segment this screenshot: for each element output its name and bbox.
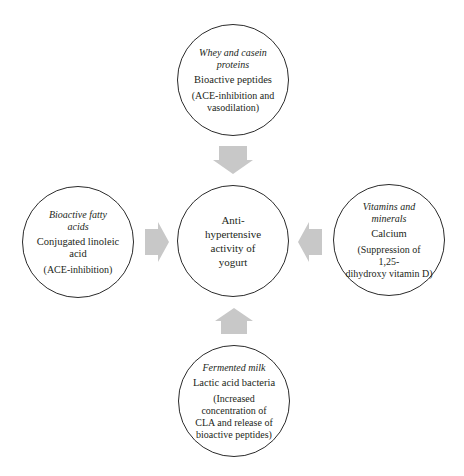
mechanism-line: bioactive peptides) (184, 429, 284, 441)
heading-line: minerals (339, 213, 439, 225)
node-mechanism: (Suppression of 1,25- dihydroxy vitamin … (339, 244, 439, 280)
mechanism-line: 1,25- (339, 256, 439, 268)
node-whey-casein-proteins: Whey and casein proteins Bioactive pepti… (177, 24, 289, 136)
arrow-up-shape (215, 308, 253, 334)
center-line: Anti- (193, 213, 273, 227)
node-center-antihypertensive-activity: Anti- hypertensive activity of yogurt (177, 185, 289, 297)
center-line: hypertensive (193, 227, 273, 241)
heading-line: Fermented milk (184, 362, 284, 374)
agent-line: acid (31, 248, 125, 260)
mechanism-line: (ACE-inhibition and (187, 90, 279, 102)
mechanism-line: (Suppression of (339, 244, 439, 256)
node-mechanism: (Increased concentration of CLA and rele… (184, 393, 284, 441)
node-agent: Calcium (339, 228, 439, 240)
heading-line: Vitamins and (339, 201, 439, 213)
mechanism-line: (Increased (184, 393, 284, 405)
node-mechanism: (ACE-inhibition) (31, 264, 125, 276)
arrow-left-shape (298, 222, 322, 262)
center-line: yogurt (193, 255, 273, 269)
agent-line: Conjugated linoleic (31, 236, 125, 248)
arrow-left-icon (298, 222, 322, 262)
node-heading: Fermented milk (184, 362, 284, 374)
node-agent: Lactic acid bacteria (184, 377, 284, 389)
mechanism-line: (ACE-inhibition) (31, 264, 125, 276)
arrow-right-shape (145, 222, 169, 262)
heading-line: proteins (187, 59, 279, 71)
node-agent: Conjugated linoleic acid (31, 236, 125, 260)
heading-line: Whey and casein (187, 47, 279, 59)
arrow-up-icon (215, 308, 253, 334)
mechanism-line: CLA and release of (184, 417, 284, 429)
mechanism-line: concentration of (184, 405, 284, 417)
node-fermented-milk: Fermented milk Lactic acid bacteria (Inc… (178, 345, 290, 457)
mechanism-line: vasodilation) (187, 102, 279, 114)
node-heading: Vitamins and minerals (339, 201, 439, 225)
center-label: Anti- hypertensive activity of yogurt (193, 213, 273, 269)
node-heading: Bioactive fatty acids (31, 209, 125, 233)
heading-line: Bioactive fatty (31, 209, 125, 221)
center-line: activity of (193, 241, 273, 255)
node-heading: Whey and casein proteins (187, 47, 279, 71)
arrow-right-icon (145, 222, 169, 262)
arrow-down-shape (213, 146, 253, 174)
node-mechanism: (ACE-inhibition and vasodilation) (187, 90, 279, 114)
arrow-down-icon (213, 146, 253, 174)
node-vitamins-minerals: Vitamins and minerals Calcium (Suppressi… (333, 184, 445, 296)
node-agent: Bioactive peptides (187, 74, 279, 86)
mechanism-line: dihydroxy vitamin D) (339, 268, 439, 280)
node-bioactive-fatty-acids: Bioactive fatty acids Conjugated linolei… (22, 186, 134, 298)
heading-line: acids (31, 221, 125, 233)
